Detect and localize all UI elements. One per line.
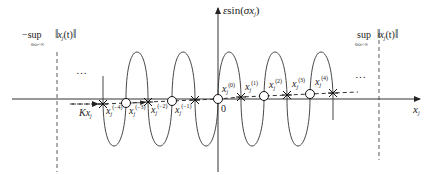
point-label-x-4: xj(−4) (106, 104, 123, 117)
point-label-x4: xj(4) (315, 75, 328, 88)
kx-label: Kxj (79, 107, 92, 119)
ellipsis-left: … (76, 64, 87, 76)
y-axis-label: εsin(σxj) (223, 4, 260, 17)
circle-marker (260, 92, 269, 101)
point-label-x-1: xj(−1) (175, 103, 192, 116)
segment-arrow (130, 103, 145, 104)
ellipsis-right: … (355, 68, 366, 80)
point-label-x0: xj(0) (222, 82, 235, 95)
origin-label: 0 (221, 103, 226, 114)
point-label-x3: xj(3) (292, 77, 305, 90)
point-label-x1: xj(1) (245, 80, 258, 93)
circle-marker (306, 90, 315, 99)
point-label-x2: xj(2) (269, 78, 282, 91)
point-label-x-2: xj(−2) (151, 103, 168, 116)
x-axis-label: xj (413, 103, 420, 116)
point-label-x-3: xj(−3) (129, 104, 146, 117)
